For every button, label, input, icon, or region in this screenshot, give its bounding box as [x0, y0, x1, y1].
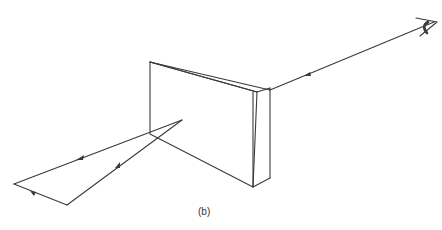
eye-icon: [416, 18, 437, 36]
arrowhead-icon: [304, 72, 311, 76]
ray-path: [14, 120, 182, 205]
arrowhead-icon: [30, 191, 36, 196]
arrowhead-icon: [115, 162, 120, 168]
arrowhead-icon: [76, 155, 84, 160]
diagram-figure: [0, 0, 442, 230]
figure-caption: (b): [198, 206, 210, 217]
observer-ray: [270, 22, 434, 90]
glass-block: [150, 62, 270, 187]
